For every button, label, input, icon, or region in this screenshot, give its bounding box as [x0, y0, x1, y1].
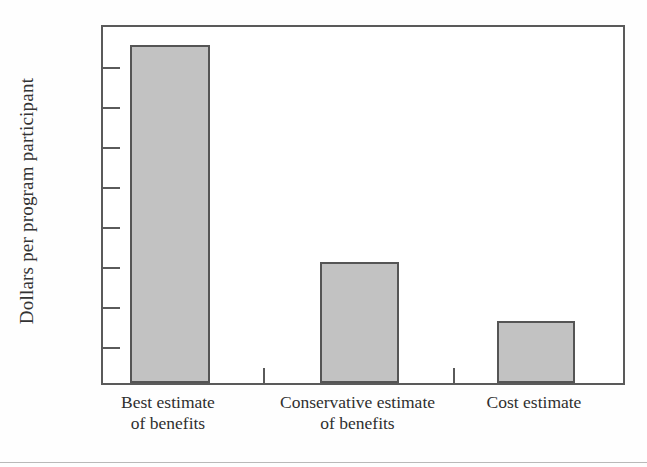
y-axis-tick: [103, 347, 120, 349]
y-axis-tick: [103, 307, 120, 309]
x-axis-label-line1: Conservative estimate: [280, 392, 435, 412]
bar-chart-figure: Dollars per program participant 01002003…: [0, 0, 647, 467]
x-axis-label-line1: Cost estimate: [487, 392, 582, 412]
y-axis-tick: [103, 187, 120, 189]
x-axis-tick: [263, 368, 265, 383]
x-axis-category-label: Best estimateof benefits: [73, 392, 263, 434]
y-axis-tick: [103, 227, 120, 229]
y-axis-title: Dollars per program participant: [16, 31, 38, 371]
y-axis-tick: [103, 147, 120, 149]
plot-area: [101, 25, 625, 385]
x-axis-category-label: Cost estimate: [439, 392, 629, 413]
x-axis-label-line2: of benefits: [263, 413, 453, 434]
x-axis-category-label: Conservative estimateof benefits: [263, 392, 453, 434]
y-axis-tick: [103, 267, 120, 269]
page-divider-rule: [0, 462, 647, 463]
x-axis-label-line2: of benefits: [73, 413, 263, 434]
x-axis-tick: [453, 368, 455, 383]
bar: [130, 45, 210, 383]
y-axis-tick: [103, 67, 120, 69]
y-axis-tick: [103, 107, 120, 109]
x-axis-label-line1: Best estimate: [121, 392, 215, 412]
bar: [320, 262, 399, 383]
bar: [497, 321, 575, 383]
